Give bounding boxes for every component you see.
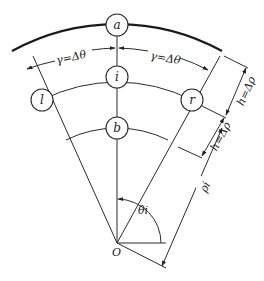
ext-line-origin (117, 243, 166, 268)
right-boundary-ray (117, 56, 220, 243)
node-i: i (106, 66, 128, 88)
node-i-label: i (115, 70, 119, 84)
polar-stencil-diagram: γ=Δθ γ=Δθ h=Δρ h=Δρ ρi θi O a i b (0, 0, 264, 281)
node-b: b (106, 117, 128, 139)
theta-dimension: θi (117, 199, 166, 243)
rho-dimension (162, 128, 222, 266)
node-r: r (181, 89, 203, 111)
node-l-label: l (40, 93, 44, 107)
node-a: a (106, 14, 128, 36)
upper-h-label: h=Δρ (234, 74, 259, 108)
left-gamma-label: γ=Δθ (55, 48, 88, 67)
radial-rays (33, 36, 220, 243)
right-dimension-arc (180, 58, 208, 70)
node-b-label: b (113, 121, 121, 135)
node-l: l (31, 89, 53, 111)
right-gamma-label: γ=Δθ (149, 49, 182, 67)
ext-line-outer (224, 56, 248, 68)
radial-dimensions: h=Δρ h=Δρ ρi (117, 56, 259, 268)
left-boundary-ray (33, 56, 117, 243)
ext-line-inner (178, 147, 202, 158)
left-angle-dimension: γ=Δθ (27, 48, 115, 69)
left-dimension-arc (27, 61, 55, 69)
lower-h-label: h=Δρ (208, 119, 234, 153)
origin-label: O (112, 246, 121, 259)
ext-line-middle (202, 106, 226, 118)
node-a-label: a (113, 18, 120, 32)
theta-i-label: θi (138, 204, 148, 217)
right-angle-dimension: γ=Δθ (119, 48, 208, 70)
